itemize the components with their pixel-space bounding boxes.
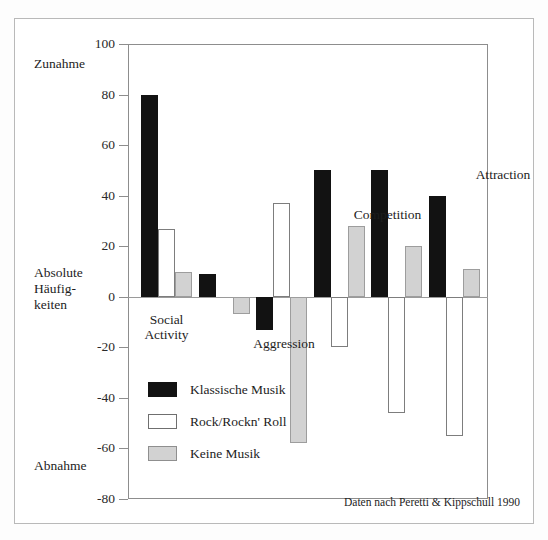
y-axis-tick xyxy=(119,145,128,146)
category-label: Aggression xyxy=(234,336,334,351)
plot-top-border xyxy=(128,44,488,45)
plot-right-border xyxy=(487,44,488,499)
y-axis-tick xyxy=(119,398,128,399)
bar xyxy=(371,170,388,296)
y-axis-tick-label: 60 xyxy=(102,138,116,152)
bar xyxy=(175,272,192,297)
bar xyxy=(233,297,250,315)
legend-item: Klassische Musik xyxy=(148,378,287,401)
y-axis-tick-label: 20 xyxy=(102,239,116,253)
y-axis-tick-label: 40 xyxy=(102,189,116,203)
bar xyxy=(158,229,175,297)
legend: Klassische Musik Rock/Rockn' Roll Keine … xyxy=(148,378,287,474)
bar xyxy=(463,269,480,297)
y-axis-tick xyxy=(119,196,128,197)
category-label: Competition xyxy=(338,207,438,222)
y-axis-tick xyxy=(119,297,128,298)
y-axis-tick-label: 0 xyxy=(108,290,115,304)
bar xyxy=(405,246,422,297)
source-note: Daten nach Peretti & Kippschull 1990 xyxy=(344,496,520,508)
y-axis-tick-label: 100 xyxy=(95,37,115,51)
y-axis-tick-label: -80 xyxy=(97,492,115,506)
y-axis-tick xyxy=(119,246,128,247)
legend-swatch-klassische-musik xyxy=(148,382,177,397)
y-axis-tick xyxy=(119,448,128,449)
bar xyxy=(199,274,216,297)
bar xyxy=(446,297,463,436)
bar xyxy=(290,297,307,444)
bar xyxy=(314,170,331,296)
y-axis-tick xyxy=(119,499,128,500)
legend-item: Keine Musik xyxy=(148,442,287,465)
y-axis-tick xyxy=(119,95,128,96)
y-axis-tick-label: -60 xyxy=(97,442,115,456)
bar xyxy=(256,297,273,330)
legend-swatch-rock xyxy=(148,414,177,429)
y-axis-tick xyxy=(119,44,128,45)
legend-label: Rock/Rockn' Roll xyxy=(190,414,287,430)
y-axis-line xyxy=(128,44,129,499)
figure-page: Zunahme Absolute Häufig- keiten Abnahme … xyxy=(0,0,548,540)
axis-note-abnahme: Abnahme xyxy=(34,458,86,474)
y-axis-tick-label: 80 xyxy=(102,88,116,102)
bar xyxy=(348,226,365,297)
bar xyxy=(141,95,158,297)
y-axis-tick-label: -20 xyxy=(97,341,115,355)
zero-baseline xyxy=(128,297,488,298)
category-label: Social Activity xyxy=(117,312,217,342)
axis-note-absolute-haeufigkeiten: Absolute Häufig- keiten xyxy=(34,265,83,313)
y-axis-tick xyxy=(119,347,128,348)
category-label: Attraction xyxy=(453,167,548,182)
y-axis-tick-label: -40 xyxy=(97,391,115,405)
bar xyxy=(273,203,290,297)
legend-swatch-keine-musik xyxy=(148,446,177,461)
axis-note-zunahme: Zunahme xyxy=(34,56,85,72)
legend-label: Klassische Musik xyxy=(190,382,286,398)
legend-item: Rock/Rockn' Roll xyxy=(148,410,287,433)
bar xyxy=(388,297,405,413)
legend-label: Keine Musik xyxy=(190,446,260,462)
